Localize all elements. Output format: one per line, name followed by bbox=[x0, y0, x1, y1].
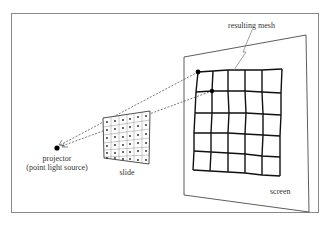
projector-sublabel: (point light source) bbox=[26, 163, 88, 172]
slide bbox=[103, 111, 150, 164]
projector-point-icon bbox=[54, 145, 59, 150]
screen-label: screen bbox=[270, 187, 290, 196]
resulting-mesh bbox=[193, 69, 282, 176]
figure-frame bbox=[12, 14, 319, 213]
mesh-corner-point-icon bbox=[196, 70, 201, 75]
projector-mesh-diagram: resulting mesh projector (point light so… bbox=[0, 0, 330, 225]
slide-label: slide bbox=[119, 168, 135, 177]
resulting-mesh-label: resulting mesh bbox=[228, 21, 275, 30]
screen-plane bbox=[184, 35, 309, 212]
projector-label: projector bbox=[43, 154, 72, 163]
mesh-label-leader bbox=[234, 30, 252, 70]
mesh-inner-point-icon bbox=[210, 89, 214, 93]
